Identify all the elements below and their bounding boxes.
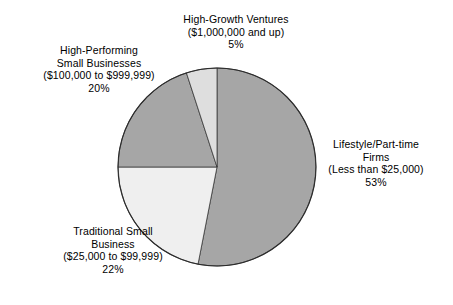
pie-label-high-performing: High-Performing Small Businesses ($100,0… xyxy=(18,44,180,94)
pie-label-lifestyle-line1: Lifestyle/Part-time xyxy=(300,138,452,151)
pie-label-traditional-line3: ($25,000 to $99,999) xyxy=(30,250,196,263)
pie-label-high-performing-line2: Small Businesses xyxy=(18,57,180,70)
pie-label-lifestyle-percent: 53% xyxy=(300,176,452,189)
pie-label-lifestyle: Lifestyle/Part-time Firms (Less than $25… xyxy=(300,138,452,188)
pie-label-traditional-line2: Business xyxy=(30,238,196,251)
pie-label-high-growth-line1: High-Growth Ventures xyxy=(148,13,324,26)
pie-label-high-performing-percent: 20% xyxy=(18,82,180,95)
pie-label-lifestyle-line3: (Less than $25,000) xyxy=(300,163,452,176)
pie-label-traditional-percent: 22% xyxy=(30,263,196,276)
pie-label-high-performing-line3: ($100,000 to $999,999) xyxy=(18,69,180,82)
pie-label-high-performing-line1: High-Performing xyxy=(18,44,180,57)
pie-label-traditional: Traditional Small Business ($25,000 to $… xyxy=(30,225,196,275)
pie-label-high-growth-line2: ($1,000,000 and up) xyxy=(148,26,324,39)
pie-chart-figure: High-Growth Ventures ($1,000,000 and up)… xyxy=(0,0,453,305)
pie-label-lifestyle-line2: Firms xyxy=(300,151,452,164)
pie-label-traditional-line1: Traditional Small xyxy=(30,225,196,238)
